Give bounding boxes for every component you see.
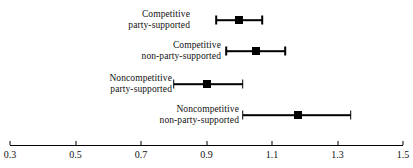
axis-line [10,145,403,146]
estimate-marker [235,16,243,24]
ci-row-4 [0,109,413,121]
ci-cap-low [225,47,227,56]
axis-tick-label: 0.9 [200,149,213,160]
axis-tick-label: 1.1 [266,149,279,160]
axis-tick [206,141,207,145]
estimate-marker [294,111,302,119]
estimate-marker [203,80,211,88]
ci-cap-low [216,16,218,25]
axis-tick-label: 1.5 [397,149,410,160]
ci-cap-low [242,111,244,120]
axis-tick-label: 0.3 [4,149,17,160]
ci-row-1 [0,14,413,26]
axis-tick-label: 1.3 [331,149,344,160]
forest-plot: Competitive party-supported Competitive … [0,0,413,168]
axis-tick [10,141,11,145]
ci-cap-low [173,80,175,89]
axis-tick-label: 0.7 [135,149,148,160]
ci-cap-high [350,111,352,120]
ci-cap-high [284,47,286,56]
axis-tick [337,141,338,145]
ci-cap-high [261,16,263,25]
axis-tick [272,141,273,145]
axis-tick [75,141,76,145]
axis-tick [141,141,142,145]
axis-tick-label: 0.5 [69,149,82,160]
estimate-marker [252,47,260,55]
axis-tick [403,141,404,145]
ci-row-2 [0,45,413,57]
ci-row-3 [0,78,413,90]
ci-cap-high [242,80,244,89]
